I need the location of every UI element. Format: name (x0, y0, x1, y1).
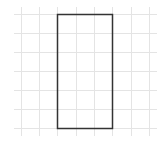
grid-diagram (0, 0, 163, 147)
grid-lines (14, 7, 157, 136)
